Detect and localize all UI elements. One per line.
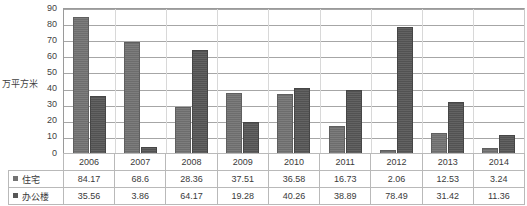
table-header-2009: 2009 bbox=[217, 154, 268, 171]
bar-办公楼-2012 bbox=[397, 27, 413, 153]
y-axis-tick-labels: 9080706050403020100 bbox=[30, 0, 60, 153]
table-header-2014: 2014 bbox=[473, 154, 524, 171]
table-cell-办公楼-2011: 38.89 bbox=[320, 188, 371, 205]
table-cell-办公楼-2007: 3.86 bbox=[115, 188, 166, 205]
table-header-row: 200620072008200920102011201220132014 bbox=[9, 154, 525, 171]
table-cell-住宅-2014: 3.24 bbox=[473, 171, 524, 188]
bar-住宅-2011 bbox=[329, 126, 345, 153]
bar-group-2010 bbox=[268, 9, 319, 153]
y-tick-20: 20 bbox=[47, 116, 57, 125]
table-cell-住宅-2013: 12.53 bbox=[422, 171, 473, 188]
table-header-2012: 2012 bbox=[371, 154, 422, 171]
table-cell-住宅-2012: 2.06 bbox=[371, 171, 422, 188]
table-cell-住宅-2007: 68.6 bbox=[115, 171, 166, 188]
bar-住宅-2009 bbox=[226, 93, 242, 153]
y-tick-60: 60 bbox=[47, 52, 57, 61]
bar-办公楼-2010 bbox=[294, 88, 310, 153]
table-header-2007: 2007 bbox=[115, 154, 166, 171]
data-table: 200620072008200920102011201220132014住宅84… bbox=[8, 153, 525, 205]
table-cell-住宅-2008: 28.36 bbox=[166, 171, 217, 188]
bar-group-2013 bbox=[422, 9, 473, 153]
legend-label: 住宅 bbox=[22, 173, 40, 186]
bar-group-2012 bbox=[371, 9, 422, 153]
y-tick-30: 30 bbox=[47, 100, 57, 109]
table-cell-办公楼-2009: 19.28 bbox=[217, 188, 268, 205]
legend-label: 办公楼 bbox=[22, 190, 49, 203]
y-tick-90: 90 bbox=[47, 4, 57, 13]
bar-group-2014 bbox=[473, 9, 524, 153]
table-row: 住宅84.1768.628.3637.5136.5816.732.0612.53… bbox=[9, 171, 525, 188]
table-header-2010: 2010 bbox=[268, 154, 319, 171]
table-header-2008: 2008 bbox=[166, 154, 217, 171]
bar-办公楼-2013 bbox=[448, 102, 464, 153]
y-tick-50: 50 bbox=[47, 68, 57, 77]
table-header-2011: 2011 bbox=[320, 154, 371, 171]
table-cell-办公楼-2010: 40.26 bbox=[268, 188, 319, 205]
bar-住宅-2006 bbox=[73, 17, 89, 153]
table-cell-住宅-2006: 84.17 bbox=[64, 171, 115, 188]
bar-办公楼-2009 bbox=[243, 122, 259, 153]
bar-住宅-2008 bbox=[175, 107, 191, 153]
bars-layer bbox=[64, 9, 524, 153]
plot-area bbox=[63, 8, 525, 153]
bar-group-2011 bbox=[320, 9, 371, 153]
table-cell-办公楼-2014: 11.36 bbox=[473, 188, 524, 205]
table-cell-住宅-2010: 36.58 bbox=[268, 171, 319, 188]
table-cell-住宅-2009: 37.51 bbox=[217, 171, 268, 188]
table-cell-办公楼-2006: 35.56 bbox=[64, 188, 115, 205]
table-corner-cell bbox=[9, 154, 64, 171]
bar-住宅-2010 bbox=[277, 94, 293, 153]
legend-swatch-icon bbox=[12, 192, 19, 199]
table-cell-住宅-2011: 16.73 bbox=[320, 171, 371, 188]
y-tick-70: 70 bbox=[47, 36, 57, 45]
table-cell-办公楼-2008: 64.17 bbox=[166, 188, 217, 205]
bar-办公楼-2011 bbox=[346, 90, 362, 153]
y-tick-10: 10 bbox=[47, 132, 57, 141]
bar-chart-with-data-table: 万平方米 9080706050403020100 200620072008200… bbox=[0, 0, 527, 206]
bar-group-2006 bbox=[64, 9, 115, 153]
legend-swatch-icon bbox=[12, 175, 19, 182]
bar-住宅-2013 bbox=[431, 133, 447, 153]
y-tick-80: 80 bbox=[47, 20, 57, 29]
legend-item-办公楼[interactable]: 办公楼 bbox=[9, 188, 64, 205]
legend-item-住宅[interactable]: 住宅 bbox=[9, 171, 64, 188]
bar-办公楼-2008 bbox=[192, 50, 208, 153]
table-header-2013: 2013 bbox=[422, 154, 473, 171]
bar-group-2008 bbox=[166, 9, 217, 153]
bar-住宅-2007 bbox=[124, 42, 140, 153]
bar-group-2007 bbox=[115, 9, 166, 153]
table-cell-办公楼-2013: 31.42 bbox=[422, 188, 473, 205]
table-header-2006: 2006 bbox=[64, 154, 115, 171]
bar-办公楼-2006 bbox=[90, 96, 106, 153]
bar-group-2009 bbox=[217, 9, 268, 153]
table-cell-办公楼-2012: 78.49 bbox=[371, 188, 422, 205]
table-row: 办公楼35.563.8664.1719.2840.2638.8978.4931.… bbox=[9, 188, 525, 205]
bar-办公楼-2014 bbox=[499, 135, 515, 153]
y-tick-40: 40 bbox=[47, 84, 57, 93]
